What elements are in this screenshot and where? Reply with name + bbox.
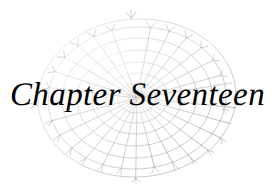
chapter-heading-page: Chapter Seventeen [0,0,275,187]
spider-web-illustration [0,0,275,187]
web-geometry [24,3,250,187]
